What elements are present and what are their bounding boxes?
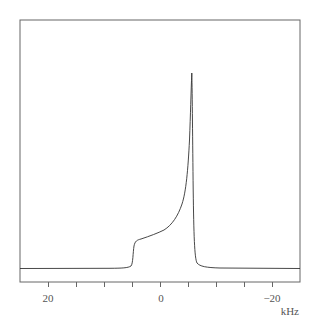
tick-label-20: 20 <box>43 292 55 304</box>
x-axis-ticks <box>49 282 273 287</box>
tick-label-0: 0 <box>158 292 164 304</box>
spectrum-line <box>20 73 300 269</box>
x-axis-unit: kHz <box>281 305 299 317</box>
plot-frame <box>20 20 300 282</box>
tick-label-minus-20: −20 <box>263 292 281 304</box>
spectrum-chart: 20 0 −20 kHz <box>0 0 318 325</box>
